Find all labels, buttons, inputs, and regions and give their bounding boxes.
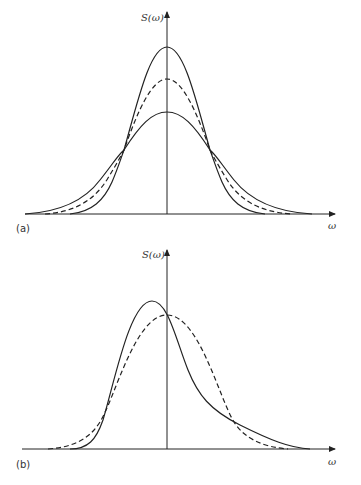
panel-b-dashed-curve — [48, 315, 288, 449]
panel-b-x-axis-label: ω — [328, 456, 336, 467]
panel-b-label: (b) — [16, 459, 30, 470]
panel-b-y-axis-label: S(ω) — [142, 249, 165, 260]
panel-b-solid-curve — [70, 301, 310, 449]
panel-a-y-axis-label: S(ω) — [141, 12, 164, 23]
panel-a-dashed-curve — [45, 79, 292, 214]
panel-b: S(ω) ω (b) — [16, 249, 336, 470]
panel-a-label: (a) — [16, 223, 30, 234]
panel-a: S(ω) ω (a) — [16, 12, 336, 234]
spectral-density-figure: S(ω) ω (a) S(ω) ω (b) — [0, 0, 361, 485]
panel-a-x-axis-label: ω — [328, 220, 336, 231]
panel-a-wide-solid-curve — [25, 112, 312, 214]
